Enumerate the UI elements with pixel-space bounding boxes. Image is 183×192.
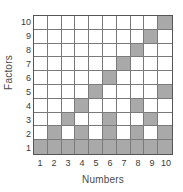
grid-cell-empty	[34, 57, 48, 71]
x-tick-label: 10	[159, 157, 173, 170]
grid-cell-empty	[144, 44, 158, 58]
grid-cell-empty	[34, 99, 48, 113]
grid-cell-empty	[89, 16, 103, 30]
grid-cell-empty	[62, 126, 76, 140]
grid-cell-empty	[158, 44, 172, 58]
grid-cell-filled	[117, 57, 131, 71]
grid-cell-empty	[131, 16, 145, 30]
y-tick-label: 3	[14, 113, 33, 127]
grid-cell-filled	[144, 140, 158, 154]
grid-cell-filled	[75, 126, 89, 140]
grid-cell-filled	[75, 99, 89, 113]
grid-cell-empty	[131, 57, 145, 71]
grid-cell-empty	[103, 85, 117, 99]
grid-cell-empty	[34, 30, 48, 44]
grid-cell-empty	[158, 99, 172, 113]
grid-cell-empty	[48, 85, 62, 99]
grid-cell-empty	[34, 126, 48, 140]
grid-cell-empty	[103, 16, 117, 30]
grid-cell-filled	[158, 140, 172, 154]
y-tick-label: 6	[14, 71, 33, 85]
grid-cell-filled	[131, 140, 145, 154]
grid-cell-empty	[144, 85, 158, 99]
y-tick-label: 7	[14, 57, 33, 71]
grid-cell-empty	[34, 85, 48, 99]
grid-cell-filled	[117, 140, 131, 154]
grid-cell-empty	[103, 57, 117, 71]
grid-cell-empty	[131, 85, 145, 99]
grid-cell-filled	[131, 44, 145, 58]
grid-cell-empty	[89, 30, 103, 44]
grid-cell-empty	[75, 57, 89, 71]
grid-cell-empty	[48, 113, 62, 127]
grid-cell-filled	[48, 126, 62, 140]
x-axis-tick-labels: 12345678910	[33, 157, 173, 170]
grid-cell-filled	[62, 113, 76, 127]
grid-cell-empty	[103, 99, 117, 113]
grid-cell-empty	[75, 44, 89, 58]
grid-cell-filled	[158, 126, 172, 140]
x-tick-label: 7	[117, 157, 131, 170]
grid-cell-empty	[89, 126, 103, 140]
grid-cell-empty	[75, 113, 89, 127]
grid-cell-empty	[34, 113, 48, 127]
grid-cell-empty	[62, 30, 76, 44]
grid-cell-empty	[117, 71, 131, 85]
y-axis-title-label: Factors	[3, 55, 14, 90]
x-tick-label: 1	[33, 157, 47, 170]
x-tick-label: 3	[61, 157, 75, 170]
x-tick-label: 5	[89, 157, 103, 170]
grid-cell-filled	[131, 126, 145, 140]
grid-cell-empty	[117, 16, 131, 30]
grid-cell-empty	[103, 30, 117, 44]
grid-cell-filled	[131, 99, 145, 113]
grid-cell-empty	[89, 71, 103, 85]
grid-cell-empty	[117, 85, 131, 99]
grid-cell-filled	[48, 140, 62, 154]
grid-cell-empty	[117, 99, 131, 113]
x-axis-title: Numbers	[33, 172, 173, 186]
grid-cell-filled	[144, 30, 158, 44]
grid-cell-empty	[34, 71, 48, 85]
grid-cell-filled	[103, 71, 117, 85]
grid-cell-empty	[62, 44, 76, 58]
y-tick-label: 2	[14, 127, 33, 141]
grid-cell-empty	[48, 44, 62, 58]
grid-cell-filled	[158, 16, 172, 30]
grid-cell-empty	[158, 71, 172, 85]
grid-cell-empty	[75, 85, 89, 99]
grid-cell-empty	[144, 99, 158, 113]
grid-cell-filled	[62, 140, 76, 154]
grid-cell-empty	[75, 71, 89, 85]
grid-cell-empty	[131, 30, 145, 44]
grid-cell-empty	[62, 57, 76, 71]
grid-cell-empty	[62, 85, 76, 99]
grid-cell-filled	[89, 85, 103, 99]
grid-cell-empty	[117, 44, 131, 58]
grid-cell-empty	[131, 113, 145, 127]
chart-plot-grid	[33, 15, 173, 155]
grid-cell-filled	[103, 126, 117, 140]
grid-cell-empty	[62, 16, 76, 30]
grid-cell-filled	[144, 113, 158, 127]
y-tick-label: 4	[14, 99, 33, 113]
grid-cell-empty	[158, 30, 172, 44]
factors-numbers-grid-chart: Factors 10987654321 12345678910 Numbers	[0, 0, 183, 192]
grid-cell-empty	[89, 113, 103, 127]
grid-cell-empty	[89, 57, 103, 71]
grid-cell-filled	[103, 140, 117, 154]
x-tick-label: 9	[145, 157, 159, 170]
x-tick-label: 2	[47, 157, 61, 170]
grid-cell-empty	[144, 57, 158, 71]
grid-cell-filled	[158, 85, 172, 99]
grid-cell-empty	[158, 113, 172, 127]
grid-cell-empty	[117, 30, 131, 44]
grid-cell-empty	[34, 16, 48, 30]
grid-cell-empty	[144, 16, 158, 30]
grid-cell-empty	[48, 71, 62, 85]
grid-cell-empty	[144, 71, 158, 85]
grid-cell-empty	[144, 126, 158, 140]
grid-cell-empty	[34, 44, 48, 58]
grid-cell-empty	[103, 44, 117, 58]
grid-cell-empty	[131, 71, 145, 85]
